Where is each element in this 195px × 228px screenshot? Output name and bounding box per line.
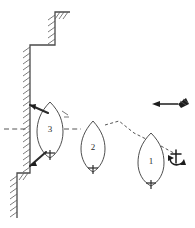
approach-track-dashed	[105, 121, 146, 139]
ship-1[interactable]: 1	[138, 133, 164, 189]
ship-3-label: 3	[48, 124, 53, 134]
anchor-chain	[161, 146, 176, 154]
wall-hatching-lower-vertical	[10, 176, 17, 217]
ship-2-label: 2	[91, 142, 96, 152]
quay-wall-outline	[17, 12, 70, 218]
diagram-canvas: 3 2 1	[0, 0, 195, 228]
mooring-lines	[30, 104, 48, 166]
current-flag-symbol	[178, 98, 189, 108]
current-direction-arrow	[152, 98, 189, 108]
wall-hatching-top	[55, 12, 68, 19]
wall-hatching-upper-vertical	[48, 15, 55, 44]
ship-2[interactable]: 2	[81, 121, 105, 174]
anchor-icon	[168, 150, 186, 165]
ship-3-bow-tick	[62, 111, 69, 117]
quay-wall	[10, 12, 70, 218]
current-arrow-head	[152, 101, 160, 107]
wall-hatching-lower-step	[19, 173, 28, 180]
ship-1-label: 1	[149, 156, 154, 166]
berthing-diagram: 3 2 1	[0, 0, 195, 228]
wall-hatching-main-vertical	[23, 47, 30, 172]
bow-mooring-anchor-point	[30, 104, 36, 110]
